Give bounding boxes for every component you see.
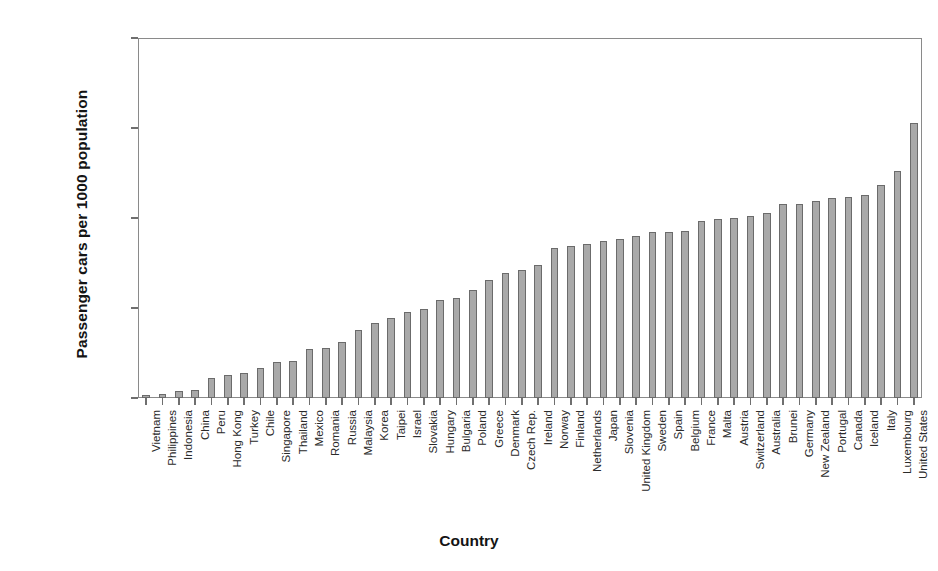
x-axis-tick-mark bbox=[750, 398, 751, 405]
x-axis-tick-labels: VietnamPhilippinesIndonesiaChinaPeruHong… bbox=[138, 410, 922, 525]
x-axis-tick-label: Singapore bbox=[281, 410, 292, 525]
bar bbox=[632, 236, 640, 398]
bar bbox=[306, 349, 314, 398]
bar bbox=[338, 342, 346, 398]
x-axis-tick-label: Belgium bbox=[690, 410, 701, 525]
x-axis-tick-mark bbox=[194, 398, 195, 405]
x-axis-tick-mark bbox=[505, 398, 506, 405]
x-axis-tick-mark bbox=[390, 398, 391, 405]
x-axis-tick-label: Thailand bbox=[298, 410, 309, 525]
bar bbox=[191, 390, 199, 398]
bar bbox=[779, 204, 787, 398]
bar bbox=[796, 204, 804, 398]
x-axis-tick-label: China bbox=[200, 410, 211, 525]
x-axis-tick-label: Peru bbox=[216, 410, 227, 525]
bar bbox=[289, 361, 297, 398]
x-axis-tick-label: Bulgaria bbox=[461, 410, 472, 525]
x-axis-tick-mark bbox=[586, 398, 587, 405]
bar bbox=[910, 123, 918, 398]
x-axis-tick-label: Luxembourg bbox=[902, 410, 913, 525]
bar bbox=[355, 330, 363, 398]
bar bbox=[616, 239, 624, 398]
x-axis-tick-label: Germany bbox=[804, 410, 815, 525]
x-axis-tick-label: Italy bbox=[886, 410, 897, 525]
x-axis-tick-label: Slovenia bbox=[624, 410, 635, 525]
x-axis-tick-mark bbox=[570, 398, 571, 405]
bar bbox=[714, 219, 722, 398]
bar bbox=[649, 232, 657, 398]
x-axis-tick-label: Vietnam bbox=[151, 410, 162, 525]
x-axis-tick-label: Chile bbox=[265, 410, 276, 525]
x-axis-tick-label: Switzerland bbox=[755, 410, 766, 525]
bar bbox=[747, 216, 755, 398]
x-axis-tick-mark bbox=[488, 398, 489, 405]
x-axis-tick-label: Norway bbox=[559, 410, 570, 525]
x-axis-tick-mark bbox=[537, 398, 538, 405]
bar bbox=[763, 213, 771, 398]
bar bbox=[861, 195, 869, 398]
x-axis-tick-label: Poland bbox=[477, 410, 488, 525]
x-axis-tick-label: Malaysia bbox=[363, 410, 374, 525]
x-axis-tick-mark bbox=[603, 398, 604, 405]
x-axis-tick-label: Russia bbox=[347, 410, 358, 525]
x-axis-tick-label: Netherlands bbox=[592, 410, 603, 525]
x-axis-tick-label: Austria bbox=[739, 410, 750, 525]
x-axis-tick-mark bbox=[456, 398, 457, 405]
x-axis-tick-label: Turkey bbox=[249, 410, 260, 525]
x-axis-tick-label: Brunei bbox=[788, 410, 799, 525]
bar bbox=[877, 185, 885, 398]
bar bbox=[371, 323, 379, 398]
bar bbox=[224, 375, 232, 398]
bar bbox=[665, 232, 673, 398]
x-axis-tick-label: France bbox=[706, 410, 717, 525]
bar bbox=[534, 265, 542, 398]
x-axis-tick-mark bbox=[276, 398, 277, 405]
x-axis-tick-label: United States bbox=[918, 410, 929, 525]
x-axis-tick-mark bbox=[243, 398, 244, 405]
x-axis-tick-mark bbox=[799, 398, 800, 405]
bar-series bbox=[138, 38, 922, 398]
y-axis-tick-mark bbox=[131, 127, 138, 129]
bar bbox=[518, 270, 526, 398]
bar bbox=[583, 244, 591, 398]
x-axis-tick-label: United Kingdom bbox=[641, 410, 652, 525]
x-axis-tick-label: Philippines bbox=[167, 410, 178, 525]
x-axis-tick-mark bbox=[341, 398, 342, 405]
x-axis-tick-mark bbox=[227, 398, 228, 405]
x-axis-tick-label: Indonesia bbox=[183, 410, 194, 525]
y-axis-tick-mark bbox=[131, 397, 138, 399]
x-axis-tick-label: New Zealand bbox=[820, 410, 831, 525]
x-axis-tick-mark bbox=[668, 398, 669, 405]
x-axis-tick-mark bbox=[439, 398, 440, 405]
bar bbox=[698, 221, 706, 398]
bar bbox=[681, 231, 689, 398]
x-axis-tick-mark bbox=[260, 398, 261, 405]
x-axis-tick-marks bbox=[138, 398, 922, 406]
x-axis-tick-mark bbox=[766, 398, 767, 405]
x-axis-tick-mark bbox=[897, 398, 898, 405]
bar bbox=[273, 362, 281, 398]
x-axis-tick-label: Portugal bbox=[837, 410, 848, 525]
bar bbox=[469, 290, 477, 398]
x-axis-tick-mark bbox=[358, 398, 359, 405]
x-axis-tick-mark bbox=[292, 398, 293, 405]
bar bbox=[420, 309, 428, 398]
x-axis-tick-mark bbox=[554, 398, 555, 405]
x-axis-tick-label: Spain bbox=[673, 410, 684, 525]
y-axis-tick-mark bbox=[131, 217, 138, 219]
x-axis-tick-mark bbox=[848, 398, 849, 405]
x-axis-tick-mark bbox=[309, 398, 310, 405]
bar bbox=[502, 273, 510, 398]
bar bbox=[894, 171, 902, 398]
y-axis-title: Passenger cars per 1000 population bbox=[73, 24, 91, 424]
x-axis-title: Country bbox=[0, 532, 938, 550]
bar bbox=[208, 378, 216, 398]
x-axis-tick-label: Canada bbox=[853, 410, 864, 525]
x-axis-tick-mark bbox=[423, 398, 424, 405]
x-axis-tick-mark bbox=[717, 398, 718, 405]
x-axis-tick-mark bbox=[325, 398, 326, 405]
bar bbox=[404, 312, 412, 398]
x-axis-tick-mark bbox=[815, 398, 816, 405]
x-axis-tick-label: Czech Rep. bbox=[526, 410, 537, 525]
bar bbox=[485, 280, 493, 398]
